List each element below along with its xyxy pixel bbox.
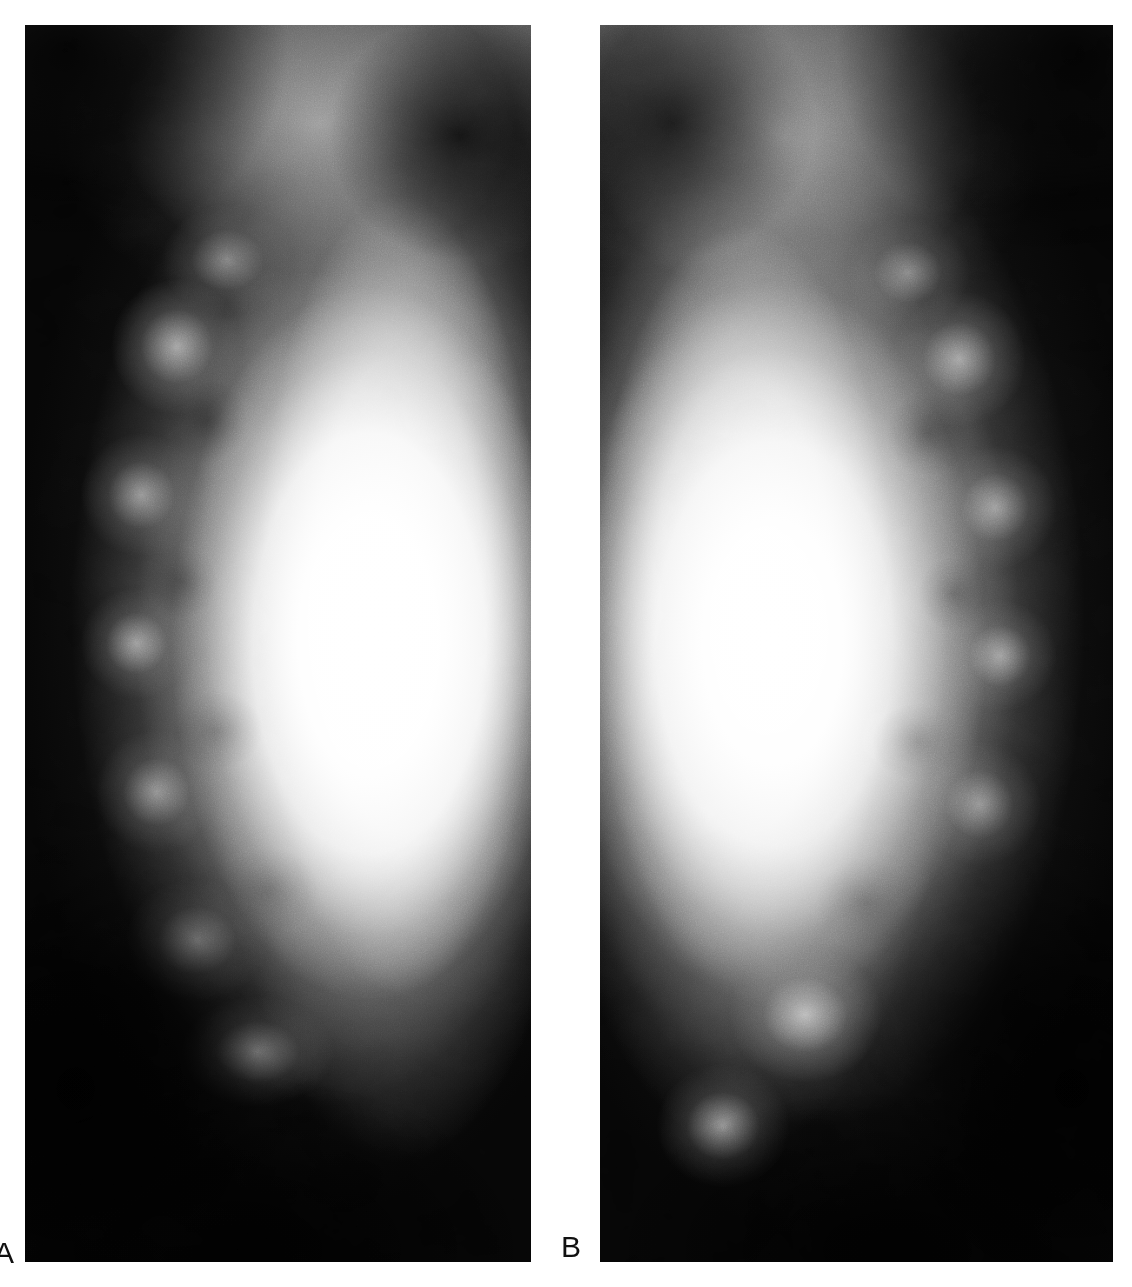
figure-root: A B — [0, 0, 1132, 1287]
mammogram-panel-a — [25, 25, 531, 1262]
panel-label-a: A — [0, 1238, 14, 1268]
mammogram-panel-b — [600, 25, 1113, 1262]
panel-label-b: B — [561, 1232, 581, 1262]
panel-b-parenchymal-texture — [600, 25, 1113, 1262]
panel-a-parenchymal-texture — [25, 25, 531, 1262]
